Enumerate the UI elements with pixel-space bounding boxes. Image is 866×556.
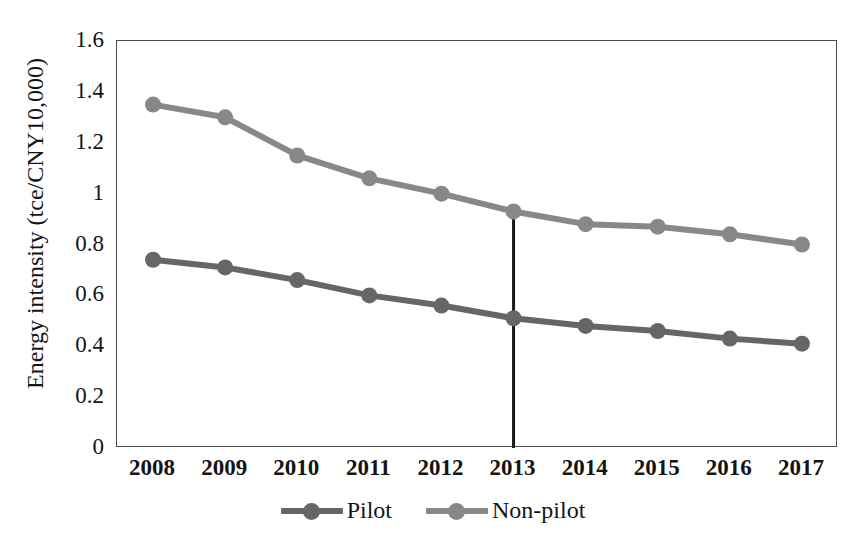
- legend-label: Pilot: [347, 497, 392, 524]
- y-axis-tick: 0.4: [40, 333, 104, 356]
- series-non-pilot: [145, 97, 810, 253]
- chart-legend: PilotNon-pilot: [0, 497, 866, 524]
- y-axis-tick: 1.6: [40, 28, 104, 51]
- data-point: [289, 147, 305, 163]
- plot-area: [116, 40, 837, 447]
- data-point: [361, 170, 377, 186]
- data-point: [650, 219, 666, 235]
- data-point: [506, 310, 522, 326]
- data-point: [145, 97, 161, 113]
- legend-item[interactable]: Pilot: [281, 497, 392, 524]
- data-point: [722, 331, 738, 347]
- series-line: [153, 260, 802, 344]
- y-axis-tick: 0.6: [40, 282, 104, 305]
- data-point: [578, 216, 594, 232]
- y-axis-tick-labels: 00.20.40.60.811.21.41.6: [40, 0, 104, 556]
- y-axis-tick: 1.2: [40, 130, 104, 153]
- data-point: [722, 226, 738, 242]
- y-axis-tick: 0.2: [40, 384, 104, 407]
- series-line: [153, 105, 802, 245]
- data-point: [578, 318, 594, 334]
- data-point: [506, 203, 522, 219]
- data-point: [433, 298, 449, 314]
- legend-dot: [448, 503, 465, 520]
- y-axis-tick: 0: [40, 435, 104, 458]
- legend-marker-icon: [281, 501, 343, 521]
- data-point: [650, 323, 666, 339]
- series-pilot: [145, 252, 810, 352]
- legend-marker-icon: [426, 501, 488, 521]
- data-point: [145, 252, 161, 268]
- y-axis-tick: 0.8: [40, 232, 104, 255]
- data-point: [794, 336, 810, 352]
- data-point: [289, 272, 305, 288]
- chart-svg: [117, 41, 838, 448]
- legend-dot: [303, 503, 320, 520]
- legend-label: Non-pilot: [492, 497, 585, 524]
- chart-figure: Energy intensity (tce/CNY10,000) 00.20.4…: [0, 0, 866, 556]
- data-point: [217, 109, 233, 125]
- y-axis-tick: 1.4: [40, 79, 104, 102]
- data-point: [361, 287, 377, 303]
- data-point: [217, 259, 233, 275]
- legend-item[interactable]: Non-pilot: [426, 497, 585, 524]
- data-point: [794, 237, 810, 253]
- x-axis-tick: 2017: [756, 455, 846, 481]
- data-point: [433, 186, 449, 202]
- y-axis-tick: 1: [40, 181, 104, 204]
